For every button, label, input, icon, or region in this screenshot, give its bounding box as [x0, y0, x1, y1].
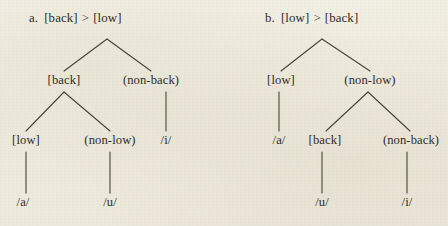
edge-a-back-to-nonlow	[64, 92, 110, 131]
node-b-phoneme-i: /i/	[402, 196, 413, 209]
caption-a-right-feature: [low]	[93, 11, 121, 25]
edge-a-back-to-low	[26, 92, 64, 131]
node-b-phoneme-a: /a/	[273, 134, 286, 147]
edge-b-nonlow-to-back	[326, 92, 368, 131]
node-b-phoneme-u: /u/	[315, 196, 329, 209]
edge-a-root-to-nonback	[107, 39, 151, 71]
edge-b-nonlow-to-nonback	[368, 92, 410, 131]
node-b-back: [back]	[309, 134, 342, 147]
caption-a-marker: a.	[29, 12, 38, 25]
caption-a-left-feature: [back]	[44, 11, 78, 25]
node-b-non-low: (non-low)	[344, 74, 395, 87]
node-b-non-back: (non-back)	[383, 134, 439, 147]
edge-b-root-to-low	[281, 39, 322, 71]
node-a-phoneme-i: /i/	[161, 134, 172, 147]
node-a-non-low: (non-low)	[84, 134, 135, 147]
paper-texture	[0, 0, 448, 226]
node-a-back: [back]	[48, 74, 81, 87]
caption-b-right-feature: [back]	[325, 11, 359, 25]
figure-page: a.[back]>[low] [back] (non-back) [low] (…	[0, 0, 448, 226]
node-a-low: [low]	[12, 134, 40, 147]
node-a-non-back: (non-back)	[123, 74, 179, 87]
caption-b: b.[low]>[back]	[265, 12, 358, 25]
caption-a-relation: >	[82, 12, 89, 25]
node-a-phoneme-a: /a/	[17, 196, 30, 209]
node-b-low: [low]	[267, 74, 295, 87]
caption-b-relation: >	[313, 12, 320, 25]
node-a-phoneme-u: /u/	[103, 196, 117, 209]
tree-edges-layer	[0, 0, 448, 226]
caption-b-left-feature: [low]	[281, 11, 309, 25]
caption-a: a.[back]>[low]	[29, 12, 122, 25]
edge-a-root-to-back	[64, 39, 107, 71]
edge-b-root-to-nonlow	[322, 39, 370, 71]
caption-b-marker: b.	[265, 12, 275, 25]
